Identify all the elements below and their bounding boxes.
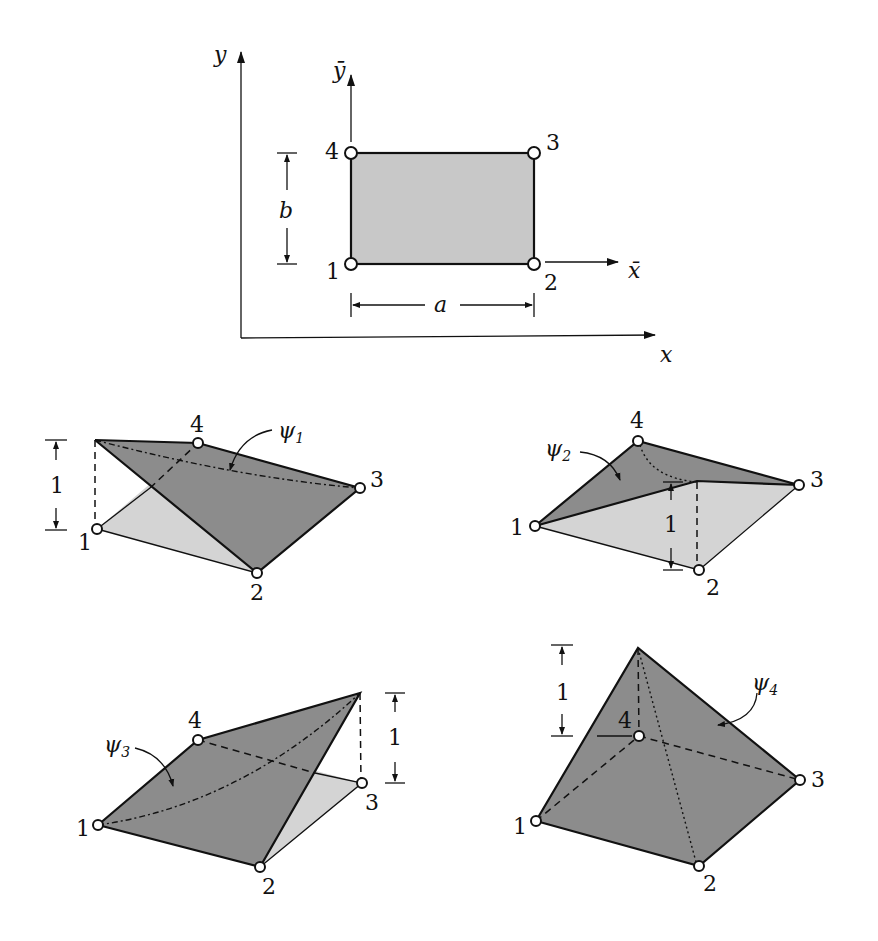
psi4-node-1-label: 1 xyxy=(513,814,527,839)
dimension-a: a xyxy=(351,292,534,317)
psi3-height-label: 1 xyxy=(388,725,402,750)
local-x-label: x̄ xyxy=(628,258,641,283)
psi3-node-3-label: 3 xyxy=(365,790,379,815)
shape-function-psi-3: 1 2 3 4 1 ψ3 xyxy=(76,693,405,899)
node-2 xyxy=(528,258,540,270)
psi2-node-3-label: 3 xyxy=(810,467,824,492)
psi1-node-3-label: 3 xyxy=(370,467,384,492)
psi4-height-label: 1 xyxy=(556,680,570,705)
element-rectangle xyxy=(351,153,534,264)
node-4 xyxy=(345,147,357,159)
dimension-b: b xyxy=(277,153,297,264)
shape-function-psi-4: 1 2 3 4 1 ψ4 xyxy=(513,645,825,896)
node-1-label: 1 xyxy=(326,259,340,284)
psi3-node-4-label: 4 xyxy=(188,708,202,733)
element-geometry: y x ȳ x̄ 1 2 3 4 b a xyxy=(213,42,673,367)
psi1-height-label: 1 xyxy=(50,473,64,498)
psi1-node-4-label: 4 xyxy=(190,412,204,437)
global-x-label: x xyxy=(660,342,673,367)
node-1 xyxy=(345,258,357,270)
psi3-label: ψ3 xyxy=(104,732,130,760)
psi1-label: ψ1 xyxy=(278,418,304,446)
global-y-label: y xyxy=(213,42,227,67)
shape-function-psi-1: 1 2 3 4 1 ψ1 xyxy=(45,412,384,605)
dimension-a-label: a xyxy=(434,292,447,317)
psi4-node-4-label: 4 xyxy=(618,708,632,733)
psi2-node-1-label: 1 xyxy=(510,515,524,540)
node-4-label: 4 xyxy=(325,139,339,164)
psi2-height-label: 1 xyxy=(664,512,678,537)
psi1-node-1-label: 1 xyxy=(78,530,92,555)
psi3-node-2-label: 2 xyxy=(262,874,276,899)
psi3-node-1-label: 1 xyxy=(76,816,90,841)
global-x-axis xyxy=(241,335,655,338)
dimension-b-label: b xyxy=(279,198,293,223)
psi4-label: ψ4 xyxy=(752,670,778,698)
psi1-node-2-label: 2 xyxy=(250,580,264,605)
psi2-node-2-label: 2 xyxy=(706,575,720,600)
shape-function-psi-2: 1 2 3 4 1 ψ2 xyxy=(510,408,824,600)
node-3-label: 3 xyxy=(546,130,560,155)
psi4-node-2-label: 2 xyxy=(703,871,717,896)
psi2-label: ψ2 xyxy=(545,436,571,464)
psi4-node-3-label: 3 xyxy=(811,767,825,792)
bilinear-element-figure: y x ȳ x̄ 1 2 3 4 b a xyxy=(0,0,878,941)
psi2-node-4-label: 4 xyxy=(630,408,644,433)
node-3 xyxy=(528,147,540,159)
local-y-label: ȳ xyxy=(332,58,346,83)
node-2-label: 2 xyxy=(544,270,558,295)
